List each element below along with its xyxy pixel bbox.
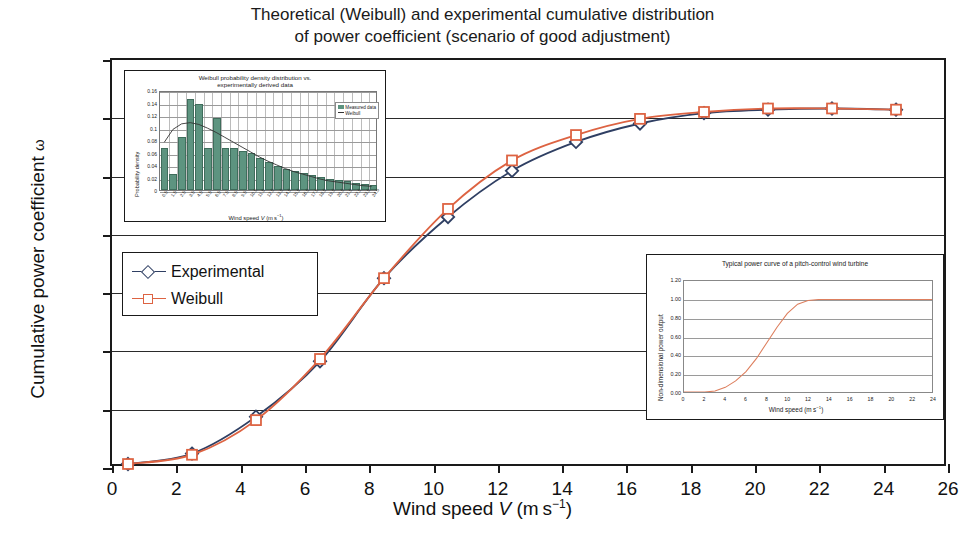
y-tick-mark xyxy=(103,293,112,295)
inset-hist-y-tick-label: 0.1 xyxy=(133,126,157,132)
y-tick-mark xyxy=(103,177,112,179)
inset-hist-title: Weibull probability density distribution… xyxy=(125,71,385,89)
x-tick-mark xyxy=(241,464,243,473)
data-point-marker xyxy=(507,155,517,165)
y-tick-mark xyxy=(103,235,112,237)
inset-power-x-tick-label: 0 xyxy=(678,396,688,402)
x-tick-label: 26 xyxy=(928,478,965,500)
legend-swatch-square-icon xyxy=(132,292,166,306)
data-point-marker xyxy=(763,104,773,114)
data-point-marker xyxy=(699,107,709,117)
inset-power-x-tick-label: 10 xyxy=(782,396,792,402)
inset-hist-x-label: Wind speed V (m s−1) xyxy=(125,213,387,221)
x-tick-mark xyxy=(884,464,886,473)
inset-power-x-tick-label: 6 xyxy=(741,396,751,402)
inset-power-y-tick-label: 1.00 xyxy=(659,296,681,302)
inset-hist-title-line-1: Weibull probability density distribution… xyxy=(125,74,385,81)
inset-hist-y-tick-label: 0.14 xyxy=(133,101,157,107)
inset-power-y-tick-label: 0.60 xyxy=(659,334,681,340)
inset-power-x-tick-label: 16 xyxy=(845,396,855,402)
x-tick-mark xyxy=(498,464,500,473)
inset-hist-y-tick-label: 0 xyxy=(133,188,157,194)
inset-power-line xyxy=(684,281,932,392)
inset-hist-legend: Measured data Weibull xyxy=(335,102,379,119)
inset-power-y-tick-label: 0.40 xyxy=(659,352,681,358)
x-tick-mark xyxy=(305,464,307,473)
inset-hist-legend-label-weibull: Weibull xyxy=(345,111,360,116)
x-tick-label: 10 xyxy=(414,478,454,500)
inset-power-x-tick-label: 22 xyxy=(907,396,917,402)
title-line-2: of power coefficient (scenario of good a… xyxy=(0,26,965,48)
y-tick-mark xyxy=(103,118,112,120)
data-point-marker xyxy=(187,450,197,460)
x-tick-mark xyxy=(112,464,114,473)
data-point-marker xyxy=(891,105,901,115)
legend-item-weibull: Weibull xyxy=(132,285,317,312)
inset-power-x-tick-label: 14 xyxy=(824,396,834,402)
x-tick-label: 8 xyxy=(349,478,389,500)
data-point-marker xyxy=(571,130,581,140)
inset-hist-y-tick-label: 0.08 xyxy=(133,138,157,144)
chart-page: Theoretical (Weibull) and experimental c… xyxy=(0,0,965,540)
inset-legend-line-icon xyxy=(338,112,344,113)
y-tick-mark xyxy=(103,60,112,62)
page-title: Theoretical (Weibull) and experimental c… xyxy=(0,4,965,48)
y-axis-label: Cumulative power coefficient ω xyxy=(27,59,49,479)
data-point-marker xyxy=(123,459,133,469)
x-tick-label: 12 xyxy=(478,478,518,500)
data-point-marker xyxy=(827,104,837,114)
y-tick-mark xyxy=(103,468,112,470)
x-tick-label: 22 xyxy=(799,478,839,500)
inset-weibull-histogram: Weibull probability density distribution… xyxy=(124,70,386,222)
inset-hist-x-tick-label: 8.5 xyxy=(231,190,239,198)
inset-legend-bar-icon xyxy=(338,105,344,109)
x-tick-mark xyxy=(755,464,757,473)
x-axis-label: Wind speed V (m s−1) xyxy=(0,497,965,520)
x-tick-label: 2 xyxy=(156,478,196,500)
inset-hist-legend-item-weibull: Weibull xyxy=(338,111,376,117)
data-point-marker xyxy=(635,114,645,124)
x-tick-mark xyxy=(434,464,436,473)
data-point-marker xyxy=(315,354,325,364)
inset-power-x-tick-label: 12 xyxy=(803,396,813,402)
inset-power-x-tick-label: 18 xyxy=(866,396,876,402)
x-tick-mark xyxy=(369,464,371,473)
x-tick-label: 16 xyxy=(606,478,646,500)
inset-power-y-tick-label: 0.80 xyxy=(659,315,681,321)
title-line-1: Theoretical (Weibull) and experimental c… xyxy=(0,4,965,26)
legend-item-experimental: Experimental xyxy=(132,258,317,285)
inset-power-y-tick-label: 0.20 xyxy=(659,371,681,377)
inset-power-x-tick-label: 2 xyxy=(699,396,709,402)
inset-power-curve: Typical power curve of a pitch-control w… xyxy=(646,254,944,420)
inset-power-x-tick-label: 24 xyxy=(928,396,938,402)
inset-power-x-tick-label: 8 xyxy=(761,396,771,402)
x-tick-mark xyxy=(562,464,564,473)
inset-hist-y-tick-label: 0.06 xyxy=(133,151,157,157)
inset-hist-y-tick-label: 0.04 xyxy=(133,163,157,169)
inset-hist-y-tick-label: 0.16 xyxy=(133,88,157,94)
x-tick-label: 4 xyxy=(221,478,261,500)
inset-hist-x-tick-label: 1.5 xyxy=(170,190,178,198)
legend-label-experimental: Experimental xyxy=(171,263,264,281)
data-point-marker xyxy=(251,415,261,425)
x-tick-label: 20 xyxy=(735,478,775,500)
inset-power-x-label: Wind speed (m s−1) xyxy=(647,405,945,413)
x-tick-label: 24 xyxy=(864,478,904,500)
x-tick-label: 14 xyxy=(542,478,582,500)
inset-power-x-tick-label: 4 xyxy=(720,396,730,402)
legend-label-weibull: Weibull xyxy=(171,290,223,308)
x-tick-label: 0 xyxy=(92,478,132,500)
x-tick-mark xyxy=(176,464,178,473)
x-tick-mark xyxy=(819,464,821,473)
inset-power-title: Typical power curve of a pitch-control w… xyxy=(647,255,943,267)
inset-hist-y-tick-label: 0.02 xyxy=(133,176,157,182)
x-tick-mark xyxy=(691,464,693,473)
data-point-marker xyxy=(443,204,453,214)
x-tick-label: 6 xyxy=(285,478,325,500)
inset-hist-y-tick-label: 0.12 xyxy=(133,113,157,119)
x-tick-mark xyxy=(626,464,628,473)
chart-legend: Experimental Weibull xyxy=(122,252,318,316)
x-tick-label: 18 xyxy=(671,478,711,500)
x-tick-mark xyxy=(948,464,950,473)
inset-power-plot-area xyxy=(683,280,933,393)
